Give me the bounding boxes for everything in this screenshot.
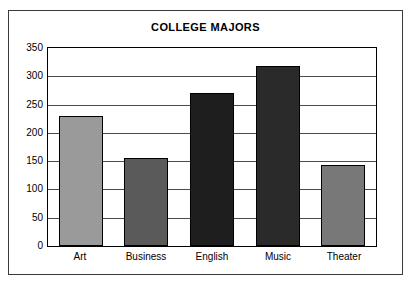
- chart-title: COLLEGE MAJORS: [9, 21, 402, 33]
- bar-slot: [114, 48, 180, 246]
- bar-slot: [245, 48, 311, 246]
- y-tick-label: 150: [11, 155, 43, 166]
- bar-slot: [179, 48, 245, 246]
- bar-music: [256, 66, 300, 246]
- bar-business: [124, 158, 168, 246]
- y-tick-label: 300: [11, 70, 43, 81]
- x-tick-label-theater: Theater: [311, 251, 377, 262]
- y-tick-label: 250: [11, 98, 43, 109]
- bar-series: [48, 48, 376, 246]
- y-axis-tick-labels: 050100150200250300350: [9, 47, 43, 247]
- y-tick-label: 350: [11, 42, 43, 53]
- plot-area: [47, 47, 377, 247]
- bar-slot: [310, 48, 376, 246]
- bar-slot: [48, 48, 114, 246]
- x-tick-label-business: Business: [113, 251, 179, 262]
- x-tick-label-music: Music: [245, 251, 311, 262]
- x-axis-tick-labels: ArtBusinessEnglishMusicTheater: [47, 251, 377, 262]
- x-tick-label-art: Art: [47, 251, 113, 262]
- chart-figure: COLLEGE MAJORS 050100150200250300350 Art…: [8, 10, 403, 275]
- bar-english: [190, 93, 234, 246]
- bar-art: [59, 116, 103, 246]
- y-tick-label: 0: [11, 240, 43, 251]
- y-tick-label: 100: [11, 183, 43, 194]
- y-tick-label: 200: [11, 126, 43, 137]
- x-tick-label-english: English: [179, 251, 245, 262]
- bar-theater: [321, 165, 365, 246]
- y-tick-label: 50: [11, 211, 43, 222]
